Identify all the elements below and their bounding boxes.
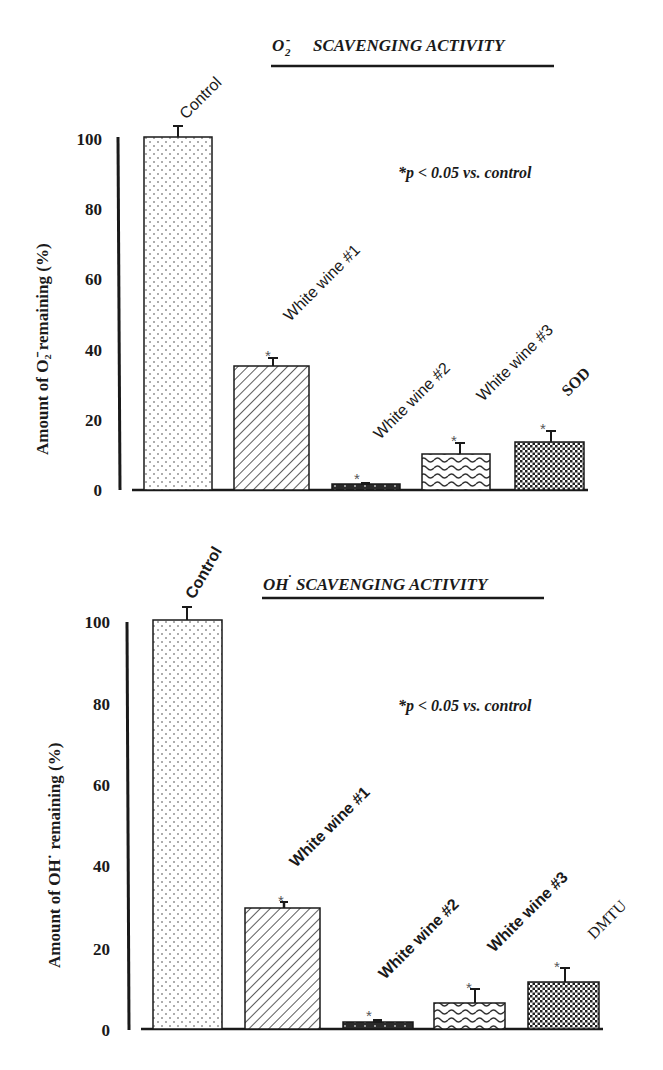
chart-oh-scavenging: OH ˙ SCAVENGING ACTIVITY *p < 0.05 vs. c…	[45, 544, 630, 1040]
y-tick: 0	[94, 481, 103, 500]
chart-title: O 2 - SCAVENGING ACTIVITY	[271, 32, 554, 66]
bar-white-wine-1: * White wine #1	[245, 783, 373, 1029]
category-label: White wine #2	[370, 359, 453, 442]
category-label: White wine #1	[280, 241, 363, 324]
title-superscript: ˙	[287, 572, 291, 587]
y-tick: 60	[85, 270, 102, 289]
significance-star: *	[354, 470, 360, 487]
category-label: White wine #1	[286, 783, 373, 870]
y-axis	[127, 622, 129, 1030]
title-species: OH	[263, 575, 289, 594]
bar-dmtu: * DMTU	[528, 896, 630, 1029]
y-axis-ticks: 0 20 40 60 80 100	[77, 130, 103, 500]
bar-control: Control	[144, 74, 225, 490]
title-superscript: -	[286, 32, 290, 47]
category-label: White wine #3	[473, 321, 556, 404]
significance-star: *	[540, 420, 546, 437]
figure: O 2 - SCAVENGING ACTIVITY *p < 0.05 vs. …	[0, 0, 663, 1070]
y-tick: 80	[85, 200, 102, 219]
title-subscript: 2	[284, 46, 291, 58]
y-tick: 0	[102, 1021, 111, 1040]
category-label: SOD	[558, 364, 593, 399]
significance-note: *p < 0.05 vs. control	[398, 697, 532, 715]
y-tick: 100	[77, 130, 103, 149]
y-tick: 20	[85, 411, 102, 430]
significance-star: *	[278, 892, 284, 909]
y-tick: 40	[93, 857, 110, 876]
chart-o2-scavenging: O 2 - SCAVENGING ACTIVITY *p < 0.05 vs. …	[33, 32, 593, 500]
y-axis-label: Amount of OH˙ remaining (%)	[45, 743, 64, 968]
y-axis-label: Amount of O₂̄ remaining (%)	[33, 243, 52, 455]
y-tick: 80	[93, 695, 110, 714]
significance-star: *	[265, 347, 271, 364]
category-label: Control	[176, 74, 224, 122]
category-label: DMTU	[584, 896, 630, 942]
significance-star: *	[554, 958, 560, 975]
y-tick: 60	[93, 776, 110, 795]
significance-note: *p < 0.05 vs. control	[398, 164, 532, 182]
y-axis	[118, 137, 120, 490]
bar-control: Control	[153, 544, 225, 1029]
significance-star: *	[466, 979, 472, 996]
y-tick: 20	[93, 940, 110, 959]
category-label: White wine #3	[484, 868, 571, 955]
y-tick: 100	[85, 613, 111, 632]
bar-white-wine-1: * White wine #1	[234, 241, 363, 490]
y-axis-ticks: 0 20 40 60 80 100	[85, 613, 111, 1040]
y-tick: 40	[85, 341, 102, 360]
category-label: Control	[182, 544, 225, 602]
category-label: White wine #2	[375, 895, 462, 982]
significance-star: *	[366, 1007, 372, 1024]
title-text: SCAVENGING ACTIVITY	[313, 36, 506, 55]
chart-title: OH ˙ SCAVENGING ACTIVITY	[262, 572, 544, 598]
title-text: SCAVENGING ACTIVITY	[296, 575, 489, 594]
significance-star: *	[451, 432, 457, 449]
title-species: O	[272, 36, 284, 55]
bar-sod: * SOD	[515, 364, 593, 490]
